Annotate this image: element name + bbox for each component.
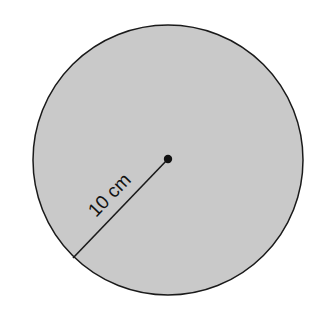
center-point xyxy=(164,155,172,163)
circle-diagram: 10 cm xyxy=(0,0,334,323)
